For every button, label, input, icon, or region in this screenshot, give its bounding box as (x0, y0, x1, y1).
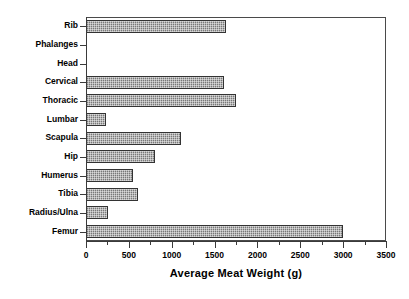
x-axis-label-3000: 3000 (323, 250, 363, 260)
bar-row (86, 92, 386, 111)
x-axis-tick-major (343, 242, 344, 248)
bar-row (86, 73, 386, 92)
x-axis-tick-minor (322, 242, 323, 245)
x-axis-tick-major (386, 242, 387, 248)
x-axis-title: Average Meat Weight (g) (86, 267, 386, 279)
y-axis-tick (80, 82, 86, 83)
bars-layer (86, 17, 386, 241)
y-axis-tick (80, 101, 86, 102)
y-axis-label-hip: Hip (4, 152, 78, 161)
x-axis-tick-minor (236, 242, 237, 245)
y-axis-label-femur: Femur (4, 227, 78, 236)
y-axis-tick (80, 45, 86, 46)
bar-thoracic (86, 94, 236, 107)
bar-lumbar (86, 113, 106, 126)
y-axis-label-head: Head (4, 59, 78, 68)
y-axis-label-scapula: Scapula (4, 133, 78, 142)
bar-rib (86, 20, 226, 33)
bar-row (86, 36, 386, 55)
y-axis-tick-labels: RibPhalangesHeadCervicalThoracicLumbarSc… (0, 17, 78, 241)
x-axis-label-3500: 3500 (366, 250, 406, 260)
bar-femur (86, 225, 343, 238)
x-axis-label-0: 0 (66, 250, 106, 260)
y-axis-tick (80, 26, 86, 27)
y-axis-tick (80, 138, 86, 139)
x-axis-tick-major (257, 242, 258, 248)
x-axis-label-1000: 1000 (152, 250, 192, 260)
bar-hip (86, 150, 155, 163)
bar-row (86, 17, 386, 36)
x-axis-tick-minor (279, 242, 280, 245)
bar-tibia (86, 188, 138, 201)
x-axis-tick-major (300, 242, 301, 248)
x-axis-tick-minor (107, 242, 108, 245)
bar-row (86, 148, 386, 167)
x-axis-tick-major (129, 242, 130, 248)
y-axis-label-thoracic: Thoracic (4, 96, 78, 105)
chart-figure: RibPhalangesHeadCervicalThoracicLumbarSc… (0, 0, 409, 299)
y-axis-line (86, 17, 87, 241)
y-axis-label-radius-ulna: Radius/Ulna (4, 208, 78, 217)
y-axis-label-tibia: Tibia (4, 189, 78, 198)
y-axis-label-humerus: Humerus (4, 171, 78, 180)
x-axis-tick-major (172, 242, 173, 248)
y-axis-tick (80, 213, 86, 214)
x-axis-label-2000: 2000 (237, 250, 277, 260)
y-axis-label-lumbar: Lumbar (4, 115, 78, 124)
y-axis-label-phalanges: Phalanges (4, 40, 78, 49)
bar-humerus (86, 169, 133, 182)
x-axis-tick-minor (365, 242, 366, 245)
bar-row (86, 129, 386, 148)
x-axis-label-2500: 2500 (280, 250, 320, 260)
bar-row (86, 54, 386, 73)
bar-row (86, 185, 386, 204)
bar-radius-ulna (86, 206, 108, 219)
bar-row (86, 204, 386, 223)
x-axis-tick-minor (150, 242, 151, 245)
y-axis-tick (80, 194, 86, 195)
y-axis-tick (80, 64, 86, 65)
y-axis-tick (80, 232, 86, 233)
bar-row (86, 110, 386, 129)
bar-scapula (86, 132, 181, 145)
x-axis-label-1500: 1500 (195, 250, 235, 260)
y-axis-tick (80, 120, 86, 121)
bar-row (86, 166, 386, 185)
y-axis-label-cervical: Cervical (4, 77, 78, 86)
bar-row (86, 222, 386, 241)
y-axis-tick (80, 157, 86, 158)
y-axis-tick (80, 176, 86, 177)
x-axis-tick-major (86, 242, 87, 248)
x-axis-label-500: 500 (109, 250, 149, 260)
y-axis-label-rib: Rib (4, 21, 78, 30)
bar-cervical (86, 76, 224, 89)
x-axis-tick-major (215, 242, 216, 248)
x-axis-tick-minor (193, 242, 194, 245)
